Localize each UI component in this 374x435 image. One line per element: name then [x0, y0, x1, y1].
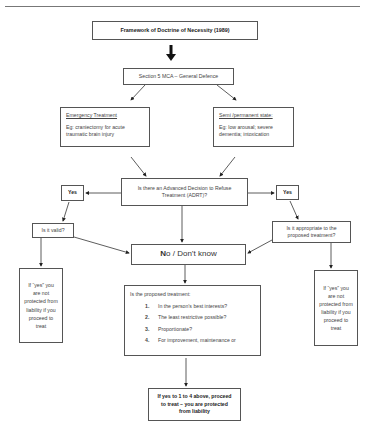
liability-right-text: If “yes” you are not protected from liab…	[319, 284, 353, 332]
item-text: Proportionate?	[158, 326, 192, 333]
liability-right-box: If “yes” you are not protected from liab…	[314, 270, 358, 346]
is-it-appropriate-text: Is it appropriate to the proposed treatm…	[279, 225, 344, 239]
item-number: 1.	[130, 303, 158, 310]
item-text: For improvement, maintenance or	[158, 337, 236, 344]
yes-right-box: Yes	[276, 185, 299, 200]
framework-title-text: Framework of Doctrine of Necessity (1989…	[120, 27, 229, 34]
proposed-treatment-box: Is the proposed treatment: 1. In the per…	[124, 285, 261, 356]
no-rest-text: o / Don’t know	[166, 249, 217, 258]
liability-left-box: If “yes” you are not protected from liab…	[19, 268, 63, 343]
section5-text: Section 5 MCA – General Defence	[139, 73, 218, 80]
adrt-question-box: Is there an Advanced Decision to Refuse …	[121, 178, 248, 206]
proposed-treatment-item: 2. The least restrictive possible?	[130, 314, 255, 321]
semi-permanent-example: Eg: low arousal; severe dementia; intoxi…	[219, 124, 288, 138]
item-text: The least restrictive possible?	[158, 314, 226, 321]
semi-permanent-box: Semi /permanent state: Eg: low arousal; …	[213, 107, 294, 147]
section5-box: Section 5 MCA – General Defence	[123, 68, 234, 85]
proposed-treatment-item: 3. Proportionate?	[130, 326, 255, 333]
final-protected-text: If yes to 1 to 4 above, proceed to treat…	[155, 393, 234, 416]
emergency-heading: Emergency Treatment	[66, 112, 144, 119]
yes-left-box: Yes	[61, 185, 84, 201]
connector-arrows	[0, 0, 374, 435]
emergency-treatment-box: Emergency Treatment Eg: craniectomy for …	[60, 107, 150, 147]
adrt-question-text: Is there an Advanced Decision to Refuse …	[128, 185, 241, 199]
proposed-treatment-list: 1. In the person’s best interests? 2. Th…	[130, 303, 255, 345]
final-protected-box: If yes to 1 to 4 above, proceed to treat…	[148, 388, 241, 421]
emergency-example: Eg: craniectomy for acute traumatic brai…	[66, 124, 144, 138]
is-it-appropriate-box: Is it appropriate to the proposed treatm…	[272, 221, 351, 243]
item-text: In the person’s best interests?	[158, 303, 227, 310]
liability-left-text: If “yes” you are not protected from liab…	[24, 281, 58, 329]
proposed-treatment-heading: Is the proposed treatment:	[130, 291, 255, 298]
item-number: 2.	[130, 314, 158, 321]
no-dont-know-box: No / Don’t know	[131, 244, 246, 265]
item-number: 3.	[130, 326, 158, 333]
yes-right-text: Yes	[283, 189, 292, 196]
yes-left-text: Yes	[68, 189, 77, 196]
proposed-treatment-item: 4. For improvement, maintenance or	[130, 337, 255, 344]
is-it-valid-text: Is it valid?	[41, 227, 64, 234]
proposed-treatment-item: 1. In the person’s best interests?	[130, 303, 255, 310]
is-it-valid-box: Is it valid?	[32, 223, 74, 238]
item-number: 4.	[130, 337, 158, 344]
framework-title-box: Framework of Doctrine of Necessity (1989…	[92, 21, 258, 40]
semi-permanent-heading: Semi /permanent state:	[219, 112, 288, 119]
